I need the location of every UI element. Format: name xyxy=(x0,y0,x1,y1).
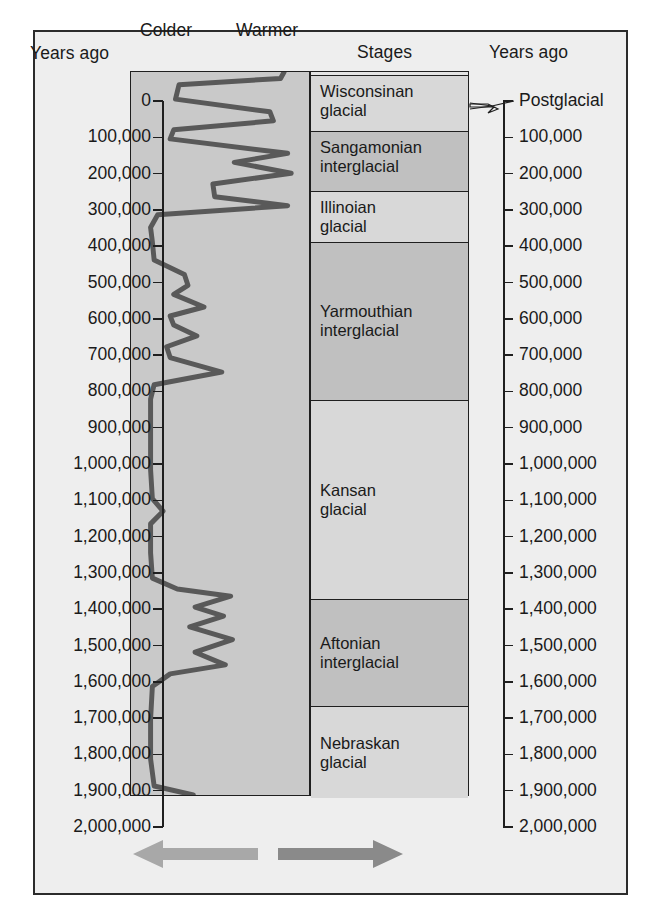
stage-label-line2: interglacial xyxy=(320,653,468,672)
left-axis-label: 300,000 xyxy=(88,199,151,220)
stage-box-kansan-glacial: Kansanglacial xyxy=(311,401,468,601)
stage-box-sangamonian-interglacial: Sangamonianinterglacial xyxy=(311,132,468,192)
stage-label-line2: interglacial xyxy=(320,157,468,176)
right-axis-label: 1,900,000 xyxy=(519,780,597,801)
left-axis-label: 1,000,000 xyxy=(73,453,151,474)
right-axis-label: 500,000 xyxy=(519,272,582,293)
left-arrow-icon xyxy=(133,838,258,870)
temperature-curve-panel xyxy=(130,71,310,796)
left-tick-mark xyxy=(153,354,163,356)
right-axis-label: 300,000 xyxy=(519,199,582,220)
left-tick-mark xyxy=(153,754,163,756)
left-tick-mark xyxy=(153,282,163,284)
right-tick-mark xyxy=(503,354,513,356)
stage-box-aftonian-interglacial: Aftonianinterglacial xyxy=(311,600,468,707)
stage-box-nebraskan-glacial: Nebraskanglacial xyxy=(311,707,468,798)
right-tick-mark xyxy=(503,645,513,647)
right-axis-label: 2,000,000 xyxy=(519,816,597,837)
right-axis-label-postglacial: Postglacial xyxy=(519,90,604,111)
stage-box-illinoian-glacial: Illinoianglacial xyxy=(311,192,468,243)
right-axis-label: 800,000 xyxy=(519,380,582,401)
right-tick-mark xyxy=(503,500,513,502)
right-tick-mark xyxy=(503,209,513,211)
header-warmer: Warmer xyxy=(236,20,298,41)
left-tick-mark xyxy=(153,790,163,792)
right-tick-mark xyxy=(503,681,513,683)
left-tick-mark xyxy=(153,717,163,719)
right-axis-label: 1,200,000 xyxy=(519,526,597,547)
left-tick-mark xyxy=(153,209,163,211)
left-tick-mark xyxy=(153,100,163,102)
right-tick-mark xyxy=(503,463,513,465)
left-axis-label: 600,000 xyxy=(88,308,151,329)
stage-label-line1: Aftonian xyxy=(320,634,468,653)
right-axis-label: 1,500,000 xyxy=(519,635,597,656)
left-tick-mark xyxy=(153,391,163,393)
left-axis-label: 400,000 xyxy=(88,235,151,256)
header-years-ago-right: Years ago xyxy=(489,42,568,63)
right-tick-mark xyxy=(503,717,513,719)
right-tick-mark xyxy=(503,173,513,175)
temperature-curve-line xyxy=(151,72,292,795)
left-axis-label: 1,900,000 xyxy=(73,780,151,801)
right-tick-mark xyxy=(503,137,513,139)
temperature-curve-svg xyxy=(131,72,309,795)
stage-label-line1: Wisconsinan xyxy=(320,82,414,100)
left-tick-mark xyxy=(153,536,163,538)
left-tick-mark xyxy=(153,318,163,320)
left-tick-mark xyxy=(153,608,163,610)
left-axis-label: 1,800,000 xyxy=(73,743,151,764)
header-stages: Stages xyxy=(357,42,412,63)
stage-label-line1: Sangamonian xyxy=(320,138,422,156)
left-axis-label: 1,200,000 xyxy=(73,526,151,547)
header-colder: Colder xyxy=(140,20,192,41)
right-tick-mark xyxy=(503,282,513,284)
left-axis-label: 1,600,000 xyxy=(73,671,151,692)
left-axis-label: 500,000 xyxy=(88,272,151,293)
right-tick-mark xyxy=(503,391,513,393)
right-axis-label: 600,000 xyxy=(519,308,582,329)
left-axis-label: 800,000 xyxy=(88,380,151,401)
left-tick-mark xyxy=(153,137,163,139)
stage-label-line2: glacial xyxy=(320,101,468,120)
left-tick-mark xyxy=(153,681,163,683)
left-axis-label: 1,700,000 xyxy=(73,707,151,728)
right-axis-label: 400,000 xyxy=(519,235,582,256)
stage-label-line1: Nebraskan xyxy=(320,734,468,753)
right-axis-label: 1,400,000 xyxy=(519,598,597,619)
left-tick-mark xyxy=(153,245,163,247)
right-axis-label: 1,700,000 xyxy=(519,707,597,728)
left-axis-label: 900,000 xyxy=(88,417,151,438)
left-tick-mark xyxy=(153,173,163,175)
right-arrow-icon xyxy=(278,838,403,870)
right-tick-mark xyxy=(503,427,513,429)
stage-label-line2: glacial xyxy=(320,217,468,236)
right-tick-mark xyxy=(503,572,513,574)
left-tick-mark xyxy=(153,572,163,574)
temperature-direction-arrows xyxy=(133,838,403,870)
left-axis-label: 1,300,000 xyxy=(73,562,151,583)
left-axis-label: 700,000 xyxy=(88,344,151,365)
stage-box-yarmouthian-interglacial: Yarmouthianinterglacial xyxy=(311,243,468,401)
stage-box-wisconsinan-glacial: Wisconsinanglacial xyxy=(311,76,468,132)
right-axis-label: 1,100,000 xyxy=(519,489,597,510)
right-tick-mark xyxy=(503,754,513,756)
left-tick-mark xyxy=(153,427,163,429)
left-tick-mark xyxy=(153,500,163,502)
right-axis-label: 200,000 xyxy=(519,163,582,184)
right-tick-mark xyxy=(503,608,513,610)
stage-label-line2: glacial xyxy=(320,500,468,519)
left-axis-label: 2,000,000 xyxy=(73,816,151,837)
stages-column: WisconsinanglacialSangamonianinterglacia… xyxy=(310,71,469,796)
left-axis-label: 100,000 xyxy=(88,126,151,147)
right-axis-label: 1,600,000 xyxy=(519,671,597,692)
right-tick-mark xyxy=(503,790,513,792)
stage-label-line2: glacial xyxy=(320,753,468,772)
right-tick-mark xyxy=(503,826,513,828)
right-axis-label: 700,000 xyxy=(519,344,582,365)
left-axis-label: 200,000 xyxy=(88,163,151,184)
right-axis-label: 100,000 xyxy=(519,126,582,147)
left-tick-mark xyxy=(153,645,163,647)
right-tick-mark xyxy=(503,245,513,247)
stage-label-line1: Kansan xyxy=(320,481,468,500)
